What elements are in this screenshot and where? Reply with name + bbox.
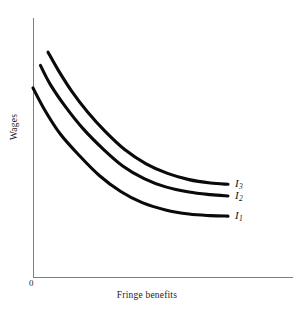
plot-area xyxy=(0,0,293,320)
origin-label: 0 xyxy=(29,279,34,288)
curve-label-i3: I3 xyxy=(235,178,242,189)
curve-label-i1-subscript: 1 xyxy=(239,214,243,223)
curve-label-i2: I2 xyxy=(235,190,242,201)
curve-i1 xyxy=(33,88,228,216)
curve-label-i2-subscript: 2 xyxy=(239,194,243,203)
x-axis-label: Fringe benefits xyxy=(33,290,261,300)
curve-label-i1: I1 xyxy=(235,210,242,221)
y-axis-label: Wages xyxy=(9,105,19,149)
indifference-curve-chart: I3 I2 I1 Wages Fringe benefits 0 xyxy=(0,0,293,320)
